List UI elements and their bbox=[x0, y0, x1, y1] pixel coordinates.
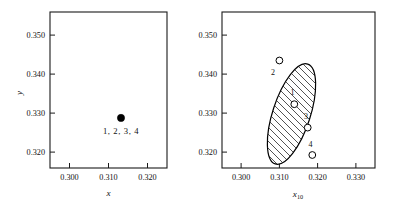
right-plot-svg: 0.350 0.340 0.330 0.320 0.300 0.310 0.32… bbox=[197, 0, 394, 208]
right-x-axis-label-sub: 10 bbox=[297, 193, 303, 200]
right-y-ticklabel-0350: 0.350 bbox=[199, 31, 217, 40]
right-data-point-3 bbox=[304, 124, 311, 131]
left-y-ticks bbox=[50, 35, 55, 152]
right-y-ticks bbox=[222, 35, 227, 152]
left-data-point-coincident bbox=[117, 114, 124, 121]
right-x-ticklabel-0300: 0.300 bbox=[232, 173, 250, 182]
left-x-axis-label: x bbox=[105, 188, 111, 198]
left-y-ticklabel-0340: 0.340 bbox=[27, 70, 45, 79]
right-x-ticks bbox=[241, 163, 356, 168]
right-y-ticklabel-0330: 0.330 bbox=[199, 109, 217, 118]
right-x-ticklabel-0310: 0.310 bbox=[270, 173, 288, 182]
right-data-point-4-label: 4 bbox=[309, 140, 313, 149]
right-scatter-panel: 0.350 0.340 0.330 0.320 0.300 0.310 0.32… bbox=[197, 0, 394, 208]
left-y-ticklabel-0350: 0.350 bbox=[27, 31, 45, 40]
left-x-ticklabel-0320: 0.320 bbox=[138, 173, 156, 182]
right-x-ticklabel-0330: 0.330 bbox=[347, 173, 365, 182]
left-plot-frame bbox=[50, 12, 167, 168]
figure-container: 0.350 0.340 0.330 0.320 0.300 0.310 0.32… bbox=[0, 0, 394, 208]
right-y-ticklabel-0320: 0.320 bbox=[199, 148, 217, 157]
left-scatter-panel: 0.350 0.340 0.330 0.320 0.300 0.310 0.32… bbox=[0, 0, 197, 208]
right-data-point-1-label: 1 bbox=[291, 88, 295, 97]
right-y-ticklabel-0340: 0.340 bbox=[199, 70, 217, 79]
left-point-group-label: 1, 2, 3, 4 bbox=[103, 126, 139, 136]
left-x-ticklabel-0300: 0.300 bbox=[60, 173, 78, 182]
left-y-axis-label: y bbox=[14, 90, 24, 96]
left-x-ticklabel-0310: 0.310 bbox=[99, 173, 117, 182]
right-data-point-4 bbox=[309, 152, 316, 159]
left-y-ticklabel-0320: 0.320 bbox=[27, 148, 45, 157]
right-data-point-1 bbox=[291, 101, 298, 108]
right-x-ticklabel-0320: 0.320 bbox=[308, 173, 326, 182]
right-x-axis-label: x10 bbox=[292, 189, 303, 200]
right-data-point-3-label: 3 bbox=[304, 112, 308, 121]
right-data-point-2 bbox=[276, 57, 283, 64]
left-x-ticks bbox=[70, 163, 148, 168]
left-plot-svg: 0.350 0.340 0.330 0.320 0.300 0.310 0.32… bbox=[0, 0, 197, 208]
right-data-point-2-label: 2 bbox=[271, 68, 275, 77]
left-y-ticklabel-0330: 0.330 bbox=[27, 109, 45, 118]
